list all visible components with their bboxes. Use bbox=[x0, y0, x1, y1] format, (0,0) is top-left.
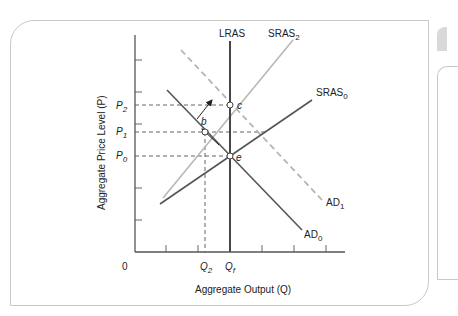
p0-label: P0 bbox=[116, 150, 128, 164]
point-e-label: e bbox=[236, 152, 242, 163]
q2-label: Q2 bbox=[200, 261, 213, 275]
p2-label: P2 bbox=[116, 100, 128, 114]
qf-label: Qf bbox=[225, 261, 236, 275]
point-c-label: c bbox=[237, 100, 242, 111]
sras2-label: SRAS2 bbox=[268, 28, 300, 42]
sras2-curve bbox=[163, 40, 293, 198]
x-axis-title: Aggregate Output (Q) bbox=[195, 284, 291, 295]
point-b-marker bbox=[202, 129, 208, 135]
x-axis-ticks bbox=[166, 245, 326, 252]
origin-label: 0 bbox=[122, 261, 128, 272]
p1-label: P1 bbox=[116, 126, 127, 140]
guide-lines bbox=[135, 105, 268, 252]
ad1-label: AD1 bbox=[326, 197, 345, 211]
ad0-label: AD0 bbox=[304, 229, 323, 243]
point-c-marker bbox=[227, 102, 233, 108]
y-axis-ticks bbox=[135, 60, 142, 220]
sras0-label: SRAS0 bbox=[316, 87, 348, 101]
point-e-marker bbox=[227, 153, 233, 159]
point-b-label: b bbox=[201, 116, 207, 127]
y-axis-title: Aggregate Price Level (P) bbox=[96, 95, 107, 210]
lras-label: LRAS bbox=[219, 28, 245, 39]
